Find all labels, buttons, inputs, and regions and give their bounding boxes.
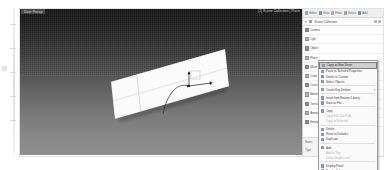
empty-icon [305, 120, 309, 124]
blank-icon [321, 156, 324, 159]
gizmo-origin-point [188, 85, 190, 87]
tree-item-light[interactable]: Light [303, 35, 383, 44]
camera-icon [305, 28, 309, 32]
context-menu-item-unlink-single-level: Unlink Single Level [319, 155, 377, 160]
add-item-icon [321, 146, 324, 149]
library-icon [321, 96, 324, 99]
context-menu-item-display-panel[interactable]: Display Panel [319, 163, 377, 168]
chevron-down-icon[interactable] [305, 21, 307, 23]
gizmo-arc-icon [161, 68, 223, 116]
property-label: Type [305, 148, 316, 152]
context-menu-item-copy-as-new-driver[interactable]: Copy as New Driver [319, 62, 377, 69]
context-menu-item-create-key-deform[interactable]: Create Key Deform [319, 87, 377, 92]
tree-item-label: Curve [310, 83, 318, 87]
toolbar-item-editor[interactable]: Editor [305, 11, 317, 15]
select-objects-icon [321, 80, 324, 83]
menu-separator [321, 161, 375, 162]
viewport-info-label: (1) Scene Collection | Plane [258, 9, 300, 13]
texture-icon [305, 102, 309, 106]
context-menu-item-delete-to-custom[interactable]: Delete to Custom [319, 74, 377, 79]
ruler-tick [10, 72, 16, 73]
menu-separator [321, 85, 375, 86]
context-menu-item-label: Copy [326, 109, 375, 113]
context-menu-item-copy[interactable]: Copy [319, 108, 377, 113]
context-menu-item-label: Insert from Nearest Library [326, 96, 375, 100]
context-menu-item-delete[interactable]: Delete [319, 127, 377, 132]
toolbar-label: Filter [335, 11, 341, 15]
context-menu-item-label: Paste to Selected Properties [326, 69, 375, 73]
property-label: Name [305, 140, 316, 144]
menu-separator [321, 143, 375, 144]
viewport-3d[interactable]: User Persp (1) Scene Collection | Plane [19, 8, 302, 155]
paste-icon [321, 70, 324, 73]
menu-separator [321, 106, 375, 107]
select-icon [344, 11, 347, 14]
tree-item-label: Light [310, 37, 316, 41]
filter-icon[interactable] [374, 20, 377, 23]
toolbar-item-add[interactable]: Add [358, 11, 367, 15]
context-menu-item-add[interactable]: Add [319, 145, 377, 150]
context-menu-item-label: Duplicate [326, 137, 375, 141]
editor-display-icon [321, 169, 324, 170]
options-icon[interactable] [378, 20, 381, 23]
ruler-tick [10, 48, 16, 49]
context-menu-item-label: Add to Tags [326, 151, 375, 155]
copy-icon [321, 109, 324, 112]
context-menu[interactable]: Copy as New Driver Paste to Selected Pro… [318, 60, 378, 170]
blank-icon [321, 119, 324, 122]
armature-icon [305, 111, 309, 115]
blank-icon [321, 151, 324, 154]
editor-icon [305, 11, 308, 14]
cube-icon [305, 74, 309, 78]
toolbar-label: Editor [309, 11, 317, 15]
collection-search-row[interactable]: Scene Collection [303, 18, 383, 26]
mesh-data-icon [305, 65, 309, 69]
filter-icon [331, 11, 334, 14]
reset-icon [321, 133, 324, 136]
context-menu-item-label: Add [326, 146, 375, 150]
tree-item-label: Mesh [310, 65, 317, 69]
context-menu-item-label: Copy as New Driver [327, 63, 374, 67]
context-menu-item-label: Display Editor [326, 169, 375, 170]
context-menu-item-label: Save as File... [326, 101, 375, 105]
context-menu-item-copy-to-selected: Copy to Selected [319, 119, 377, 124]
context-menu-item-label: Display Panel [326, 164, 375, 168]
context-menu-item-insert-from-nearest-library[interactable]: Insert from Nearest Library [319, 95, 377, 100]
tree-item-camera[interactable]: Camera [303, 26, 383, 35]
context-menu-item-duplicate[interactable]: Duplicate [319, 137, 377, 142]
search-actions[interactable] [374, 20, 381, 23]
curve-icon [305, 83, 309, 87]
tree-item-label: Plane [310, 56, 317, 60]
toolbar-item-filter[interactable]: Filter [331, 11, 342, 15]
vertical-ruler [13, 8, 15, 154]
tree-item-label: Object [310, 46, 318, 50]
context-menu-item-select-objects[interactable]: Select Objects [319, 79, 377, 84]
mesh-object-plane[interactable] [111, 66, 243, 126]
tree-item-label: Cube [310, 74, 317, 78]
context-menu-item-save-as-file[interactable]: Save as File... [319, 100, 377, 105]
viewport-label: User Persp [21, 9, 45, 14]
context-menu-item-label: Select Objects [326, 80, 375, 84]
toolbar-item-select[interactable]: Select [344, 11, 356, 15]
context-menu-item-paste-to-selected-properties[interactable]: Paste to Selected Properties [319, 69, 377, 74]
menu-separator [321, 125, 375, 126]
tree-item-label: Camera [310, 28, 320, 32]
context-menu-item-reset-to-defaults[interactable]: Reset to Defaults [319, 132, 377, 137]
search-input[interactable]: Scene Collection [314, 20, 372, 24]
context-menu-item-add-to-tags: Add to Tags [319, 150, 377, 155]
context-menu-item-label: Create Key Deform [326, 88, 372, 92]
toolbar-item-view[interactable]: View [319, 11, 329, 15]
collection-icon [309, 20, 312, 23]
context-menu-item-copy-full-data-path: Copy Full Data Path [319, 114, 377, 119]
context-menu-item-display-editor[interactable]: Display Editor [319, 168, 377, 170]
tree-item-object[interactable]: Object [303, 44, 383, 53]
copy-driver-icon [322, 64, 325, 67]
context-menu-item-label: Copy to Selected [326, 119, 375, 123]
toolbar-label: Select [348, 11, 356, 15]
panel-toolbar[interactable]: Editor View Filter Select Add [303, 9, 383, 18]
context-menu-item-label: Delete to Custom [326, 75, 375, 79]
context-menu-item-label: Reset to Defaults [326, 132, 375, 136]
rotate-gizmo[interactable] [161, 68, 223, 116]
light-icon [305, 37, 309, 41]
mesh-icon [305, 56, 309, 60]
